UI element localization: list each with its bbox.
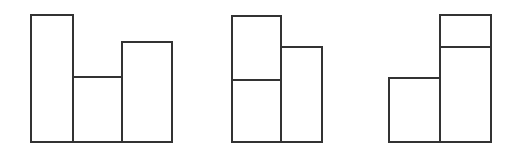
group-2-bar-1-cell-bottom <box>232 80 281 142</box>
group-3-bar-2 <box>440 15 491 142</box>
group-1-bar-2 <box>73 77 122 142</box>
group-1-bar-2-cell-1 <box>73 77 122 142</box>
group-2-bar-2-cell-1 <box>281 47 322 142</box>
group-2-bar-2 <box>281 47 322 142</box>
rectangle-figure <box>0 0 522 164</box>
group-1-bar-3 <box>122 42 172 142</box>
group-1 <box>31 15 172 142</box>
figure-canvas <box>0 0 522 164</box>
group-1-bar-1-cell-1 <box>31 15 73 142</box>
group-2-bar-1-cell-top <box>232 16 281 80</box>
group-1-bar-1 <box>31 15 73 142</box>
group-3-bar-1-cell-1 <box>389 78 440 142</box>
group-1-bar-3-cell-1 <box>122 42 172 142</box>
group-3-bar-2-cell-top <box>440 15 491 47</box>
group-3 <box>389 15 491 142</box>
group-3-bar-1 <box>389 78 440 142</box>
group-2 <box>232 16 322 142</box>
group-2-bar-1 <box>232 16 281 142</box>
group-3-bar-2-cell-bottom <box>440 47 491 142</box>
